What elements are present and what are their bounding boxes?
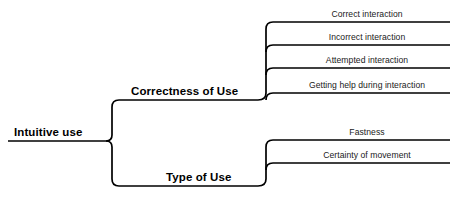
mind-map-diagram: Intuitive use Correctness of Use Type of… (0, 0, 465, 198)
branch1-leaf3-connector (266, 68, 450, 75)
branch-label-correctness-of-use[interactable]: Correctness of Use (131, 86, 238, 98)
leaf-label-attempted-interaction[interactable]: Attempted interaction (326, 56, 408, 65)
branch-label-type-of-use[interactable]: Type of Use (166, 172, 231, 184)
leaf-label-incorrect-interaction[interactable]: Incorrect interaction (329, 33, 406, 42)
mind-map-connectors (0, 0, 465, 198)
branch1-leaf4-connector (266, 93, 450, 100)
leaf-label-certainty-of-movement[interactable]: Certainty of movement (323, 151, 411, 160)
leaf-label-getting-help-during-interaction[interactable]: Getting help during interaction (309, 81, 425, 90)
root-node-label[interactable]: Intuitive use (14, 127, 82, 139)
root-fork-upper (106, 100, 258, 141)
leaf-label-correct-interaction[interactable]: Correct interaction (331, 10, 402, 19)
branch2-leaf2-connector (266, 163, 450, 170)
leaf-label-fastness[interactable]: Fastness (349, 128, 384, 137)
branch1-leaf2-connector (266, 45, 450, 52)
